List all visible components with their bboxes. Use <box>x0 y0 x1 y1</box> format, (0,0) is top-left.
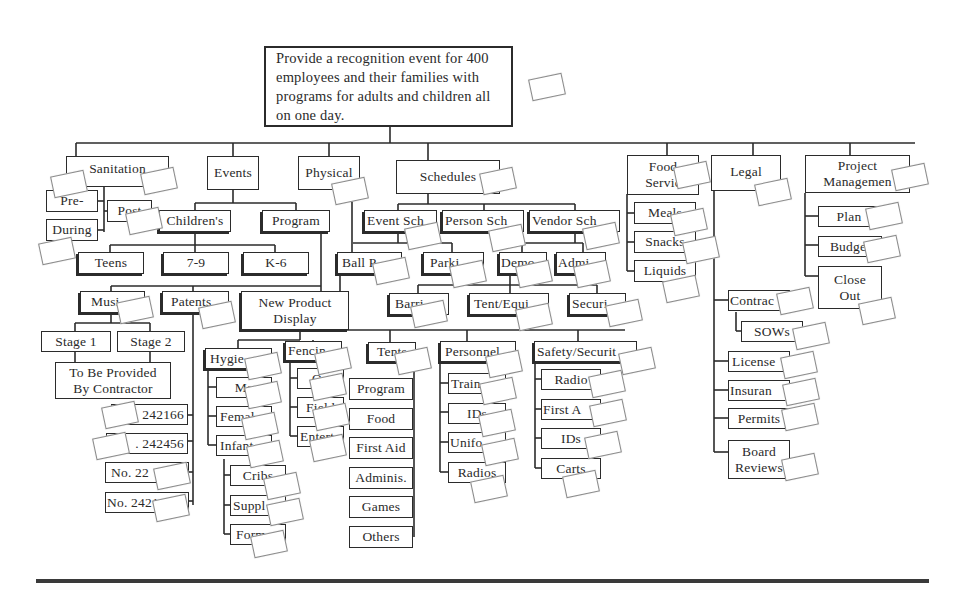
node-stage-2: Stage 2 <box>117 331 185 352</box>
node-stage-1: Stage 1 <box>41 331 111 352</box>
wbs-diagram: Provide a recognition event for 400 empl… <box>0 0 972 593</box>
node-tent-games: Games <box>349 496 413 518</box>
root-objective-box: Provide a recognition event for 400 empl… <box>264 46 513 127</box>
bottom-divider <box>36 579 929 583</box>
node-events: Events <box>207 156 259 190</box>
node-k-6: K-6 <box>243 252 309 274</box>
node-new-product-display: New Product Display <box>241 291 349 330</box>
node-tent-others: Others <box>349 526 413 548</box>
node-tent-adminis: Adminis. <box>349 467 413 489</box>
node-tent-program: Program <box>349 378 413 400</box>
node-teens: Teens <box>78 252 144 274</box>
node-7-9: 7-9 <box>163 252 229 274</box>
node-tent-first-aid: First Aid <box>349 437 413 459</box>
node-program: Program <box>262 210 330 232</box>
node-tent-food: Food <box>349 408 413 430</box>
node-during: During <box>46 219 98 241</box>
node-contractor-note: To Be Provided By Contractor <box>55 362 171 399</box>
node-childrens: Children's <box>159 210 231 232</box>
node-insurance: Insuran <box>728 380 790 401</box>
